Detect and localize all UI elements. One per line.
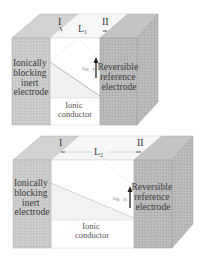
cell-diagram-bottom: I II L2 cM(+, II) Ionically blocking ine… <box>13 136 193 248</box>
left-electrode-label: Ionically blocking inert electrode <box>13 58 49 97</box>
label-interface-II: II <box>102 16 109 27</box>
label-interface-I: I <box>59 137 62 148</box>
diagram-canvas: I II L1 cM(+, II) Ionically blocking ine… <box>0 0 201 260</box>
label-interface-I: I <box>58 16 61 27</box>
left-electrode-label: Ionically blocking inert electrode <box>14 178 50 217</box>
right-electrode-label: Reversible reference electrode <box>97 62 140 92</box>
right-electrode-label: Reversible reference electrode <box>131 182 174 212</box>
label-interface-II: II <box>137 137 144 148</box>
cell-diagram-top: I II L1 cM(+, II) Ionically blocking ine… <box>12 14 158 125</box>
